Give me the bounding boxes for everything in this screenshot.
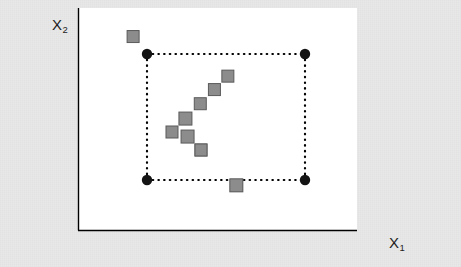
scatter-plot-canvas bbox=[0, 0, 461, 267]
y-axis-label-subscript: 2 bbox=[63, 24, 68, 35]
corner-point bbox=[142, 175, 152, 185]
x-axis-label: X1 bbox=[389, 235, 404, 250]
corner-point bbox=[300, 175, 310, 185]
diamond-point bbox=[230, 179, 243, 192]
plot-panel bbox=[78, 8, 357, 230]
diamond-point bbox=[127, 31, 139, 43]
corner-point bbox=[142, 49, 152, 59]
diamond-point bbox=[195, 144, 207, 156]
diamond-point bbox=[166, 126, 178, 138]
y-axis-label-text: X bbox=[52, 16, 62, 33]
x-axis-label-subscript: 1 bbox=[400, 242, 405, 253]
diamond-point bbox=[194, 98, 206, 110]
corner-point bbox=[300, 49, 310, 59]
diamond-point bbox=[181, 130, 194, 143]
diamond-point-center bbox=[179, 112, 192, 125]
diamond-point bbox=[208, 84, 220, 96]
diamond-point bbox=[222, 70, 234, 82]
x-axis-label-text: X bbox=[389, 234, 399, 251]
y-axis-label: X2 bbox=[52, 17, 67, 32]
figure-container: X2 X1 bbox=[0, 0, 461, 267]
